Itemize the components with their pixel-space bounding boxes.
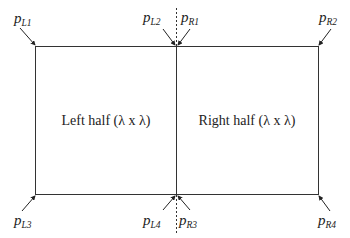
label-pR3: pR3 bbox=[178, 212, 197, 230]
left-half-label: Left half (λ x λ) bbox=[62, 113, 151, 129]
arrow-pL1 bbox=[20, 28, 35, 45]
label-pL1: pL1 bbox=[13, 10, 32, 28]
right-half-label: Right half (λ x λ) bbox=[199, 113, 296, 129]
arrow-pR2 bbox=[319, 29, 331, 45]
split-square-diagram: Left half (λ x λ) Right half (λ x λ) pL1… bbox=[0, 0, 350, 238]
label-pL2: pL2 bbox=[142, 9, 161, 27]
label-pR2: pR2 bbox=[318, 9, 337, 27]
arrow-pR4 bbox=[319, 196, 330, 211]
arrow-pR1 bbox=[178, 29, 190, 45]
label-pR4: pR4 bbox=[317, 212, 336, 230]
arrow-pL4 bbox=[163, 196, 175, 210]
label-pL4: pL4 bbox=[142, 212, 161, 230]
arrow-pL2 bbox=[163, 29, 175, 45]
label-pR1: pR1 bbox=[180, 9, 199, 27]
arrow-pR3 bbox=[178, 196, 190, 210]
arrow-pL3 bbox=[22, 196, 35, 211]
label-pL3: pL3 bbox=[13, 212, 32, 230]
